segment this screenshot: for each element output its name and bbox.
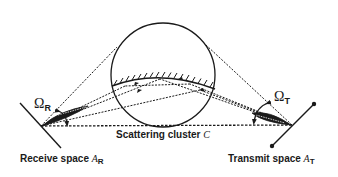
receive-cone-upper: [41, 47, 117, 126]
receive-label-text: Receive space: [20, 153, 92, 164]
transmit-space-subscript: T: [310, 157, 315, 166]
transmit-cone-upper: [206, 45, 292, 125]
cluster-label-text: Scattering cluster: [116, 129, 203, 140]
cluster-symbol: C: [203, 129, 210, 140]
omega-subscript: T: [284, 96, 290, 106]
transmit-endpoint-bottom: [270, 144, 274, 148]
receive-space-label: Receive space AR: [20, 154, 104, 164]
receive-space-subscript: R: [98, 157, 104, 166]
receive-angle-label: ΩR: [34, 97, 51, 111]
transmit-beam-lobe: [252, 113, 291, 126]
transmit-angle-label: ΩT: [274, 90, 290, 104]
transmit-endpoint-top: [312, 102, 316, 106]
transmit-space-label: Transmit space AT: [228, 154, 315, 164]
transmit-space-symbol: A: [304, 153, 310, 164]
receive-space-symbol: A: [92, 153, 98, 164]
baseline-path: [41, 125, 292, 126]
omega-subscript: R: [44, 103, 51, 113]
scattering-cluster-label: Scattering cluster C: [116, 130, 210, 140]
scattering-diagram: [0, 0, 338, 177]
transmit-label-text: Transmit space: [228, 153, 304, 164]
omega-symbol: Ω: [34, 96, 44, 111]
omega-symbol: Ω: [274, 89, 284, 104]
